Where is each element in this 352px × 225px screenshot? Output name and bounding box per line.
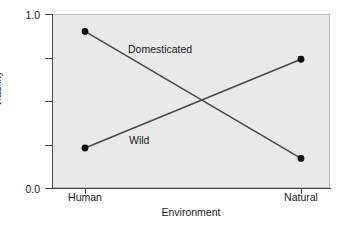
chart-figure: 1.0 0.0 Human Natural Viability Environm… — [0, 0, 352, 225]
y-axis-tick-major-top — [45, 14, 52, 15]
plot-area — [52, 14, 330, 188]
y-axis-tick-major-bottom — [45, 188, 52, 189]
y-axis-tick-minor-050 — [45, 101, 52, 102]
y-axis-tick-label-top: 1.0 — [25, 10, 40, 21]
x-axis-line — [52, 188, 331, 189]
y-axis-tick-minor-025 — [45, 145, 52, 146]
y-axis-title: Viability — [0, 54, 3, 124]
x-axis-tick-label-human: Human — [68, 192, 102, 203]
y-axis-tick-label-bottom: 0.0 — [25, 184, 40, 195]
series-label-domesticated: Domesticated — [128, 44, 192, 55]
x-axis-tick-label-natural: Natural — [284, 192, 318, 203]
x-axis-title: Environment — [52, 207, 330, 218]
y-axis-tick-minor-075 — [45, 58, 52, 59]
y-axis-line — [52, 14, 53, 189]
series-label-wild: Wild — [129, 135, 149, 146]
